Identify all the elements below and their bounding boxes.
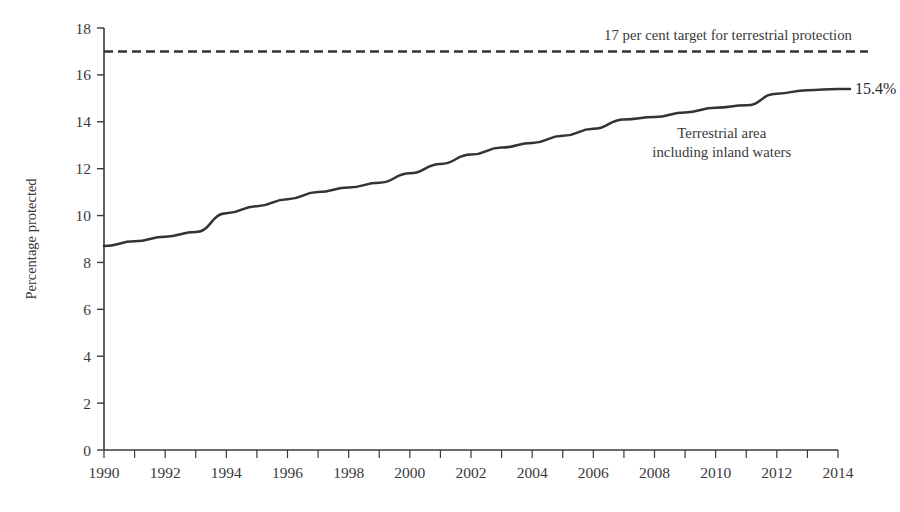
x-tick-label: 2000 <box>394 464 425 481</box>
x-tick-label: 2004 <box>517 464 548 481</box>
series-label-line-2: including inland waters <box>652 144 791 160</box>
series-label-line-1: Terrestrial area <box>677 125 766 141</box>
x-tick-label: 2008 <box>639 464 670 481</box>
target-line-label: 17 per cent target for terrestrial prote… <box>604 27 852 43</box>
y-tick-label: 12 <box>76 160 92 177</box>
y-tick-label: 16 <box>76 66 92 83</box>
y-tick-label: 2 <box>83 395 91 412</box>
x-tick-label: 2006 <box>578 464 609 481</box>
x-tick-label: 2012 <box>761 464 792 481</box>
x-tick-label: 1996 <box>272 464 303 481</box>
y-tick-label: 8 <box>83 254 91 271</box>
y-tick-label: 18 <box>76 20 92 37</box>
series-end-value-label: 15.4% <box>855 80 896 97</box>
x-tick-label: 1994 <box>211 464 242 481</box>
y-tick-label: 0 <box>83 442 91 459</box>
x-tick-label: 1992 <box>150 464 181 481</box>
chart-background <box>0 0 900 512</box>
y-tick-label: 14 <box>76 113 92 130</box>
x-tick-label: 1998 <box>333 464 364 481</box>
x-tick-label: 2014 <box>823 464 854 481</box>
line-chart: 024681012141618 199019921994199619982000… <box>0 0 900 512</box>
x-tick-label: 2010 <box>700 464 731 481</box>
chart-container: 024681012141618 199019921994199619982000… <box>0 0 900 512</box>
x-tick-label: 2002 <box>456 464 487 481</box>
y-tick-label: 10 <box>76 207 92 224</box>
x-tick-label: 1990 <box>89 464 120 481</box>
y-tick-label: 6 <box>83 301 91 318</box>
y-tick-label: 4 <box>83 348 91 365</box>
y-axis-title: Percentage protected <box>23 178 39 300</box>
